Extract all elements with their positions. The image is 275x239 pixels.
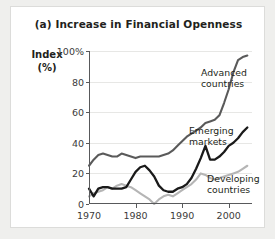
- y-tick-label: 0: [78, 199, 84, 210]
- y-tick-label: 100%: [57, 46, 84, 57]
- series-label-emerging-line1: Emerging: [189, 125, 234, 136]
- x-tick-mark: [229, 204, 230, 208]
- x-tick-label: 1970: [77, 210, 101, 221]
- series-label-emerging-markets: Emerging markets: [189, 125, 234, 147]
- series-label-developing-line2: countries: [207, 184, 260, 195]
- x-tick-label: 1990: [170, 210, 194, 221]
- series-label-advanced-line2: countries: [201, 78, 247, 89]
- x-tick-mark: [182, 204, 183, 208]
- series-label-advanced-countries: Advanced countries: [201, 67, 247, 89]
- y-tick-label: 60: [72, 107, 84, 118]
- series-label-developing-line1: Developing: [207, 173, 260, 184]
- plot-area: 100%806040200 1970198019902000 Advanced …: [89, 51, 252, 204]
- y-axis-label-line2: (%): [23, 61, 71, 74]
- series-label-emerging-line2: markets: [189, 136, 234, 147]
- chart-figure: (a) Increase in Financial Openness Index…: [10, 6, 265, 228]
- y-tick-label: 20: [72, 168, 84, 179]
- chart-title: (a) Increase in Financial Openness: [11, 18, 266, 30]
- x-tick-label: 1980: [123, 210, 147, 221]
- y-tick-label: 80: [72, 76, 84, 87]
- x-tick-mark: [136, 204, 137, 208]
- series-label-advanced-line1: Advanced: [201, 67, 247, 78]
- series-label-developing-countries: Developing countries: [207, 173, 260, 195]
- y-tick-mark: [86, 204, 90, 205]
- y-tick-label: 40: [72, 137, 84, 148]
- x-tick-label: 2000: [217, 210, 241, 221]
